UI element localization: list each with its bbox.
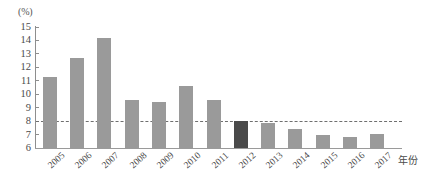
x-axis-tick-label: 2007	[100, 150, 121, 170]
y-axis-tick-label: 15	[21, 20, 32, 33]
y-axis-tick-mark	[36, 94, 39, 95]
bar-2013	[261, 123, 275, 148]
y-axis-tick-mark	[36, 40, 39, 41]
x-axis-tick-label: 2012	[237, 150, 258, 170]
x-axis-tick-label: 2010	[182, 150, 203, 170]
y-axis-tick-label: 11	[21, 74, 31, 87]
y-axis-tick-label: 8	[26, 114, 31, 127]
x-axis-tick-label: 2017	[373, 150, 394, 170]
y-axis-tick-mark	[36, 67, 39, 68]
x-axis-title: 年份	[398, 152, 418, 167]
y-axis-tick-mark	[36, 80, 39, 81]
x-axis-tick-label: 2016	[346, 150, 367, 170]
y-axis-tick-label: 13	[21, 47, 32, 60]
x-axis-tick-label: 2009	[155, 150, 176, 170]
y-axis-tick-label: 6	[26, 141, 31, 154]
bar-2009	[152, 102, 166, 148]
y-axis-tick-label: 9	[26, 101, 31, 114]
y-axis-tick-mark	[36, 134, 39, 135]
x-axis-tick-label: 2013	[264, 150, 285, 170]
bar-2012	[234, 121, 248, 148]
bar-2015	[316, 135, 330, 148]
x-axis-tick-label: 2006	[73, 150, 94, 170]
y-axis-tick-mark	[36, 53, 39, 54]
plot-area: 1514131211109876	[36, 27, 391, 148]
y-axis-tick-label: 14	[21, 33, 32, 46]
bar-2011	[207, 100, 221, 148]
y-axis-tick-label: 10	[21, 87, 32, 100]
bar-2005	[43, 77, 57, 148]
y-axis-tick-label: 12	[21, 60, 32, 73]
y-axis-tick-mark	[36, 107, 39, 108]
x-axis-tick-label: 2011	[209, 150, 230, 170]
bar-chart: (%) 1514131211109876 2005200620072008200…	[0, 0, 433, 190]
x-axis-line	[35, 148, 402, 149]
x-axis-tick-label: 2008	[127, 150, 148, 170]
x-axis-tick-label: 2015	[319, 150, 340, 170]
bar-2010	[179, 86, 193, 148]
bar-2006	[70, 58, 84, 148]
bar-2014	[288, 129, 302, 148]
bar-2007	[97, 38, 111, 148]
x-axis-tick-label: 2005	[45, 150, 66, 170]
bar-2008	[125, 100, 139, 148]
y-axis-tick-label: 7	[26, 128, 31, 141]
x-axis-tick-label: 2014	[291, 150, 312, 170]
bar-2016	[343, 137, 357, 148]
y-axis-unit-label: (%)	[18, 6, 32, 17]
y-axis-tick-mark	[36, 27, 39, 28]
bar-2017	[370, 134, 384, 148]
